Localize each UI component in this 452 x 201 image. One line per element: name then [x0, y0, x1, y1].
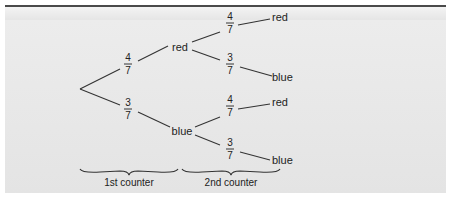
leaf-blue-blue: blue	[272, 154, 293, 166]
label-2nd-counter: 2nd counter	[205, 177, 258, 188]
branch-red-blue	[192, 50, 220, 60]
branch-red-red-2	[238, 19, 270, 25]
label-1st-counter: 1st counter	[104, 177, 154, 188]
node-blue: blue	[172, 125, 193, 137]
branch-root-red	[80, 69, 120, 89]
branch-blue-blue	[195, 135, 220, 145]
prob-br-num: 4	[227, 94, 233, 105]
prob-blue-den: 7	[125, 110, 131, 121]
branch-root-blue-2	[138, 112, 170, 127]
branch-root-blue	[80, 89, 120, 105]
prob-bb-den: 7	[227, 150, 233, 161]
leaf-red-red: red	[272, 11, 288, 23]
branch-blue-red	[195, 117, 220, 127]
branch-root-red-2	[138, 46, 168, 61]
branch-blue-blue-2	[240, 152, 270, 160]
prob-br-den: 7	[227, 107, 233, 118]
prob-rb-den: 7	[227, 65, 233, 76]
node-red: red	[172, 41, 188, 53]
prob-rb-num: 3	[227, 52, 233, 63]
branch-red-red	[192, 32, 220, 42]
prob-red-den: 7	[125, 65, 131, 76]
leaf-red-blue: blue	[272, 71, 293, 83]
prob-rr-num: 4	[227, 11, 233, 22]
prob-bb-num: 3	[227, 137, 233, 148]
brace-2nd	[182, 169, 280, 175]
branch-blue-red-2	[238, 104, 270, 109]
prob-blue-num: 3	[125, 97, 131, 108]
leaf-blue-red: red	[272, 96, 288, 108]
branch-red-blue-2	[240, 67, 272, 76]
brace-1st	[80, 169, 178, 175]
prob-rr-den: 7	[227, 24, 233, 35]
prob-red-num: 4	[125, 52, 131, 63]
probability-tree: 4 7 3 7 red blue 4 7 3 7 4 7 3 7 red blu…	[0, 0, 452, 201]
